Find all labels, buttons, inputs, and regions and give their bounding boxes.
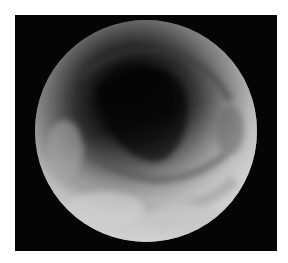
image-frame: [15, 15, 277, 251]
endoscopic-view: [35, 20, 257, 242]
mucosa-illustration: [35, 20, 257, 242]
